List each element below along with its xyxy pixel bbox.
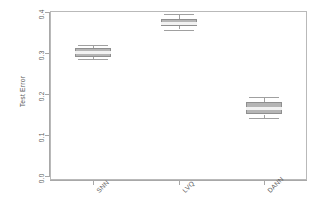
whisker-cap-upper xyxy=(164,14,194,15)
x-tick-label-lvq: LVQ xyxy=(181,180,195,194)
y-tick-mark xyxy=(45,135,49,136)
whisker-lower xyxy=(179,26,180,29)
x-tick-label-snn: SNN xyxy=(95,179,110,194)
y-tick-label: 0.1 xyxy=(39,133,46,143)
boxplot-figure: 0.00.10.20.30.4 Test Error SNNLVQDANN xyxy=(0,0,319,212)
median-line xyxy=(161,22,197,25)
y-tick-label: 0.3 xyxy=(39,51,46,61)
y-tick-label: 0.0 xyxy=(39,174,46,184)
whisker-cap-upper xyxy=(78,45,108,46)
y-tick-label: 0.4 xyxy=(39,10,46,20)
median-line xyxy=(246,107,282,110)
x-tick-mark xyxy=(179,181,180,185)
boxplot-dann xyxy=(246,97,282,118)
y-tick-mark xyxy=(45,94,49,95)
y-tick-mark xyxy=(45,12,49,13)
plot-area-frame xyxy=(50,11,307,180)
whisker-cap-lower xyxy=(164,30,194,31)
whisker-cap-lower xyxy=(249,118,279,119)
y-tick-mark xyxy=(45,176,49,177)
boxplot-lvq xyxy=(161,14,197,30)
x-tick-mark xyxy=(93,181,94,185)
y-axis-title: Test Error xyxy=(19,62,26,122)
whisker-cap-lower xyxy=(78,59,108,60)
whisker-cap-upper xyxy=(249,97,279,98)
x-tick-mark xyxy=(264,181,265,185)
boxplot-snn xyxy=(75,45,111,59)
y-tick-label: 0.2 xyxy=(39,92,46,102)
y-axis-line xyxy=(49,12,50,177)
y-tick-mark xyxy=(45,53,49,54)
median-line xyxy=(75,51,111,54)
